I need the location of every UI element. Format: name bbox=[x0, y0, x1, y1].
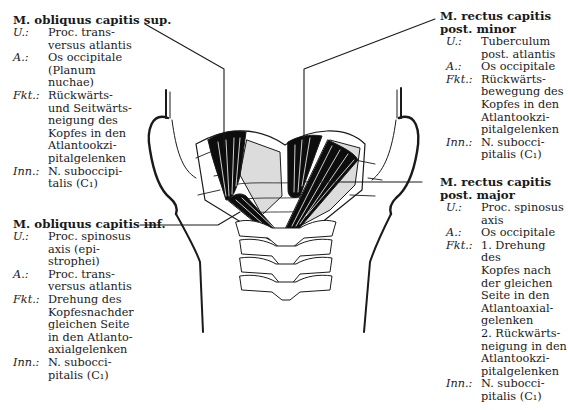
label-obliquus-capitis-superior: M. obliquus capitis sup. U.:Proc. trans-… bbox=[13, 14, 171, 191]
neck-left bbox=[176, 214, 203, 332]
entry-origin: U.:Proc. spinosus axis (epi- strophei) bbox=[13, 231, 166, 269]
neck-right bbox=[364, 214, 391, 332]
entry-insertion: A.:Os occipitale (Planum nuchae) bbox=[13, 52, 171, 90]
head-outline bbox=[166, 88, 401, 118]
entry-function: Fkt.:Rückwärts- und Seitwärts- neigung d… bbox=[13, 90, 171, 166]
entry-innervation: Inn.:N. subocci- pitalis (C₁) bbox=[13, 357, 166, 382]
cervical-vertebrae bbox=[236, 220, 336, 300]
entry-origin: U.:Proc. spinosus axis bbox=[446, 202, 568, 227]
entry-innervation: Inn.:N. suboccipi- talis (C₁) bbox=[13, 166, 171, 191]
anatomy-figure: M. obliquus capitis sup. U.:Proc. trans-… bbox=[0, 0, 568, 410]
entry-origin: U.:Proc. trans- versus atlantis bbox=[13, 27, 171, 52]
entry-function: Fkt.:Drehung des Kopfesnachder gleichen … bbox=[13, 294, 166, 357]
entry-insertion: A.:Proc. trans- versus atlantis bbox=[13, 269, 166, 294]
entry-function: Fkt.:1. Drehung des Kopfes nach der glei… bbox=[446, 240, 568, 379]
entry-innervation: Inn.:N. subocci- pitalis (C₁) bbox=[446, 137, 564, 162]
label-rectus-capitis-posterior-minor: M. rectus capitis post. minor U.:Tubercu… bbox=[440, 10, 564, 162]
entry-origin: U.:Tuberculum post. atlantis bbox=[446, 36, 564, 61]
entry-insertion: A.:Os occipitale bbox=[446, 227, 568, 240]
label-obliquus-capitis-inferior: M. obliquus capitis inf. U.:Proc. spinos… bbox=[13, 218, 166, 382]
entry-insertion: A.:Os occipitale bbox=[446, 61, 564, 74]
label-rectus-capitis-posterior-major: M. rectus capitis post. major U.:Proc. s… bbox=[440, 176, 568, 404]
entry-innervation: Inn.:N. subocci- pitalis (C₁) bbox=[446, 378, 568, 403]
entry-function: Fkt.:Rückwärts- bewegung des Kopfes in d… bbox=[446, 74, 564, 137]
